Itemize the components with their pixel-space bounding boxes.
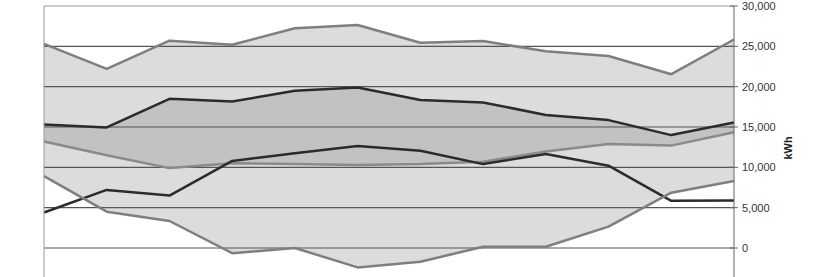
y-axis-ticks: 05,00010,00015,00020,00025,00030,000 [730,0,776,254]
y-tick-label: 15,000 [742,121,776,133]
y-tick-label: 20,000 [742,81,776,93]
y-tick-label: 5,000 [742,202,770,214]
kwh-range-chart: 05,00010,00015,00020,00025,00030,000 kWh [0,0,836,277]
y-tick-label: 30,000 [742,0,776,12]
y-tick-label: 0 [742,242,748,254]
y-tick-label: 10,000 [742,161,776,173]
y-tick-label: 25,000 [742,40,776,52]
y-axis-title: kWh [782,136,794,160]
